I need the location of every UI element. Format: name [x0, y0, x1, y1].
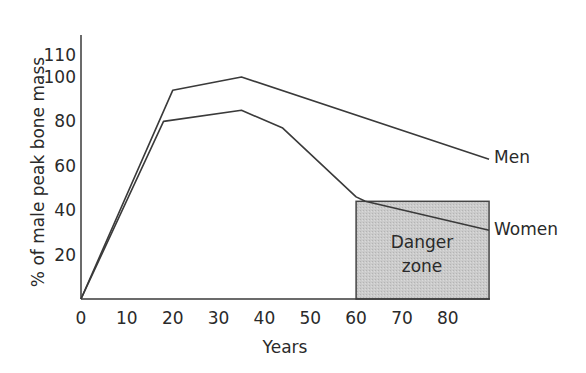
danger-zone-label-line1: Danger [391, 232, 454, 252]
x-tick-label: 40 [254, 308, 276, 328]
x-axis-title: Years [262, 337, 308, 357]
y-tick-label: 110 [44, 45, 76, 65]
bone-mass-chart: Danger zone 01020304050607080 2040608010… [0, 0, 586, 373]
series-label-women: Women [494, 219, 558, 239]
x-tick-label: 10 [116, 308, 138, 328]
x-tick-label: 50 [299, 308, 321, 328]
x-tick-label: 20 [162, 308, 184, 328]
y-tick-labels: 20406080100110 [44, 45, 76, 265]
x-tick-label: 70 [391, 308, 413, 328]
y-tick-label: 40 [54, 200, 76, 220]
y-axis-title: % of male peak bone mass [28, 57, 48, 287]
y-tick-label: 20 [54, 245, 76, 265]
y-tick-label: 100 [44, 67, 76, 87]
x-tick-label: 30 [208, 308, 230, 328]
danger-zone-label-line2: zone [402, 256, 443, 276]
x-tick-label: 60 [345, 308, 367, 328]
series-label-men: Men [494, 147, 530, 167]
x-tick-labels: 01020304050607080 [76, 308, 459, 328]
y-tick-label: 80 [54, 111, 76, 131]
y-tick-label: 60 [54, 156, 76, 176]
x-tick-label: 0 [76, 308, 87, 328]
danger-zone: Danger zone [356, 201, 489, 299]
x-tick-label: 80 [437, 308, 459, 328]
